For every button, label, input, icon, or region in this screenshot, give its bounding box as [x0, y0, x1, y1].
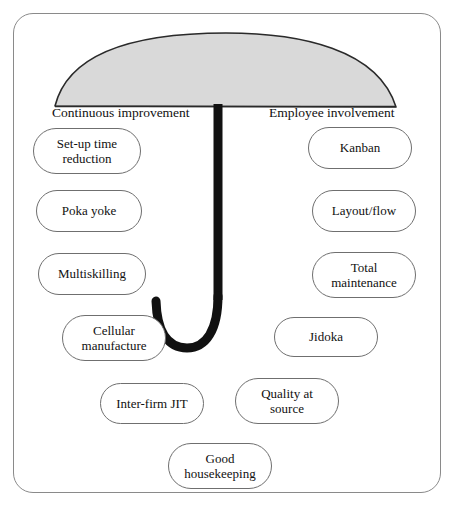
pill-label-line2: housekeeping — [184, 466, 255, 481]
pill-multiskilling[interactable]: Multiskilling — [38, 253, 146, 295]
pill-good-housekeeping[interactable]: Good housekeeping — [168, 443, 272, 489]
pill-label-line1: Set-up time — [57, 136, 117, 151]
lean-umbrella-diagram: Continuous improvement Employee involvem… — [0, 0, 456, 508]
pill-inter-firm-jit[interactable]: Inter-firm JIT — [100, 383, 204, 424]
pill-kanban[interactable]: Kanban — [308, 127, 412, 169]
pill-label-line1: Poka yoke — [62, 203, 117, 218]
pill-setup-time-reduction[interactable]: Set-up time reduction — [33, 128, 141, 174]
pill-poka-yoke[interactable]: Poka yoke — [36, 190, 142, 232]
label-employee-involvement: Employee involvement — [269, 106, 395, 120]
pill-label-line2: source — [261, 401, 313, 416]
pill-label-line1: Good — [184, 451, 255, 466]
pill-label-line2: reduction — [57, 151, 117, 166]
pill-label-line1: Quality at — [261, 386, 313, 401]
pill-label-line1: Jidoka — [309, 329, 343, 344]
pill-cellular-manufacture[interactable]: Cellular manufacture — [62, 315, 166, 361]
pill-jidoka[interactable]: Jidoka — [274, 317, 378, 357]
pill-label-line2: maintenance — [331, 275, 397, 290]
pill-label-line1: Kanban — [340, 140, 380, 155]
pill-label-line1: Inter-firm JIT — [116, 396, 188, 411]
label-continuous-improvement: Continuous improvement — [52, 106, 190, 120]
umbrella-canopy — [55, 33, 396, 107]
pill-label-line1: Multiskilling — [58, 266, 126, 281]
pill-label-line1: Total — [331, 260, 397, 275]
pill-label-line1: Layout/flow — [332, 203, 396, 218]
pill-quality-at-source[interactable]: Quality at source — [235, 378, 339, 424]
pill-label-line1: Cellular — [82, 323, 147, 338]
pill-label-line2: manufacture — [82, 338, 147, 353]
pill-total-maintenance[interactable]: Total maintenance — [312, 252, 416, 298]
pill-layout-flow[interactable]: Layout/flow — [312, 190, 416, 232]
